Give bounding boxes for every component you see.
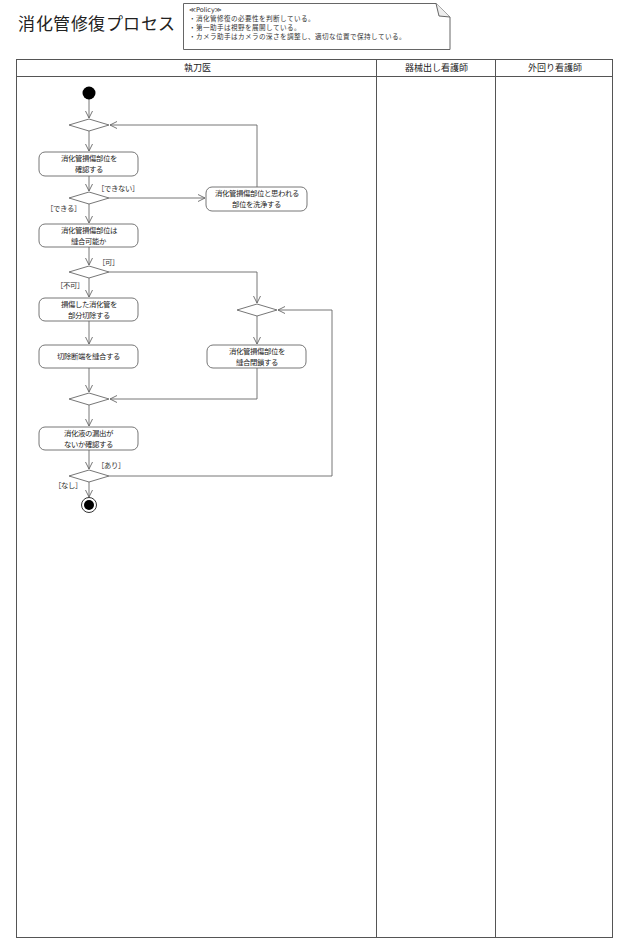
action-label-confirm-damage: 消化管損傷部位を 確認する <box>39 152 138 176</box>
initial-node <box>83 87 96 100</box>
action-text: 消化管損傷部位と思われる 部位を洗浄する <box>215 188 299 210</box>
final-node-dot <box>84 500 94 510</box>
guard-cannot: ［できない］ <box>97 184 139 193</box>
guard-can: ［できる］ <box>46 204 81 213</box>
merge-node <box>69 119 109 131</box>
action-text: 消化液の漏出が ないか確認する <box>64 428 113 450</box>
action-label-wash-site: 消化管損傷部位と思われる 部位を洗浄する <box>204 187 309 211</box>
guard-leak-yes: ［あり］ <box>97 461 125 470</box>
decision-node-suturable <box>69 266 109 278</box>
action-label-partial-resection: 損傷した消化管を 部分切除する <box>39 298 138 321</box>
action-label-leak-check: 消化液の漏出が ないか確認する <box>39 427 138 450</box>
decision-node-can-confirm <box>69 192 109 204</box>
action-label-suturable-check: 消化管損傷部位は 縫合可能か <box>39 224 138 247</box>
action-text: 損傷した消化管を 部分切除する <box>61 299 117 321</box>
action-text: 消化管損傷部位は 縫合可能か <box>61 225 117 247</box>
guard-not-possible: ［不可］ <box>56 281 84 290</box>
action-text: 消化管損傷部位を 確認する <box>61 153 117 175</box>
merge-node-suture <box>237 304 277 316</box>
action-label-suture-close: 消化管損傷部位を 縫合閉鎖する <box>207 345 306 368</box>
guard-leak-no: ［なし］ <box>54 481 82 490</box>
activity-diagram <box>0 0 626 949</box>
guard-possible: ［可］ <box>98 258 119 267</box>
merge-node-after-suture <box>69 393 109 405</box>
action-label-suture-stump: 切除断端を縫合する <box>39 345 138 368</box>
action-text: 消化管損傷部位を 縫合閉鎖する <box>229 346 285 368</box>
action-text: 切除断端を縫合する <box>57 351 120 362</box>
